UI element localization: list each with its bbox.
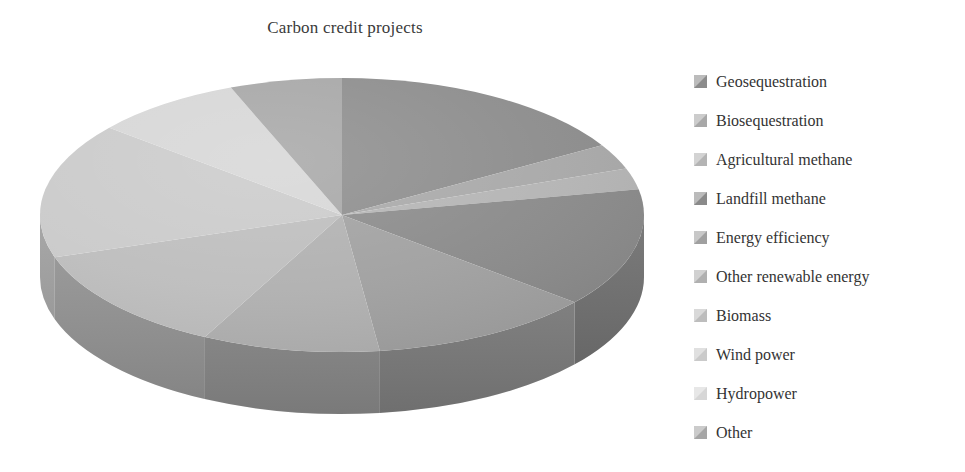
legend-swatch-icon [694, 348, 707, 361]
legend-item-label: Energy efficiency [716, 230, 830, 246]
chart-title: Carbon credit projects [0, 18, 690, 38]
legend-swatch-icon [694, 75, 707, 88]
legend-swatch-highlight [694, 114, 707, 127]
pie-top-surface: GeosequestrationBiosequestrationAgricult… [40, 78, 644, 352]
legend-swatch-highlight [694, 309, 707, 322]
legend-item-label: Landfill methane [716, 191, 826, 207]
legend-swatch-highlight [694, 270, 707, 283]
legend-item[interactable]: Biosequestration [694, 101, 965, 140]
legend-swatch-highlight [694, 387, 707, 400]
legend-item-label: Other [716, 425, 752, 441]
legend-swatch-icon [694, 231, 707, 244]
legend-swatch-icon [694, 426, 707, 439]
legend-item[interactable]: Landfill methane [694, 179, 965, 218]
legend-swatch-highlight [694, 348, 707, 361]
legend-item-label: Other renewable energy [716, 269, 869, 285]
legend-swatch-highlight [694, 231, 707, 244]
legend-item-label: Biosequestration [716, 113, 824, 129]
legend-item-label: Hydropower [716, 386, 797, 402]
legend-item[interactable]: Biomass [694, 296, 965, 335]
legend-item[interactable]: Wind power [694, 335, 965, 374]
legend-item[interactable]: Energy efficiency [694, 218, 965, 257]
legend-swatch-icon [694, 153, 707, 166]
legend-swatch-icon [694, 387, 707, 400]
legend-item[interactable]: Geosequestration [694, 62, 965, 101]
legend-item[interactable]: Hydropower [694, 374, 965, 413]
legend-item[interactable]: Other renewable energy [694, 257, 965, 296]
legend-item[interactable]: Agricultural methane [694, 140, 965, 179]
chart-figure: Carbon credit projects GeosequestrationB… [0, 0, 965, 472]
legend-swatch-highlight [694, 192, 707, 205]
legend-swatch-icon [694, 192, 707, 205]
legend-item-label: Geosequestration [716, 74, 827, 90]
legend-swatch-highlight [694, 426, 707, 439]
legend-swatch-icon [694, 309, 707, 322]
legend-item-label: Biomass [716, 308, 771, 324]
legend-item-label: Wind power [716, 347, 795, 363]
legend-item-label: Agricultural methane [716, 152, 852, 168]
legend-swatch-icon [694, 270, 707, 283]
legend-swatch-highlight [694, 75, 707, 88]
legend-swatch-icon [694, 114, 707, 127]
legend-item[interactable]: Other [694, 413, 965, 452]
legend-swatch-highlight [694, 153, 707, 166]
pie-chart-plot-area: GeosequestrationBiosequestrationAgricult… [0, 50, 690, 450]
pie-chart-svg: GeosequestrationBiosequestrationAgricult… [0, 50, 690, 450]
chart-legend: Geosequestration Biosequestration Agricu… [694, 62, 965, 462]
